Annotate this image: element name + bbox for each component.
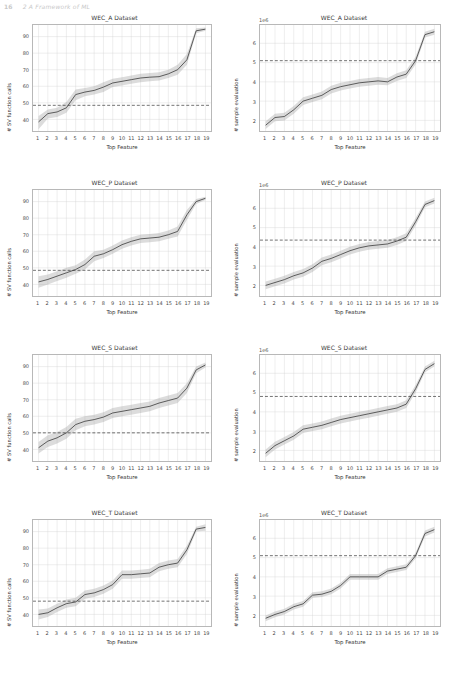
x-axis-label: Top Feature [259,144,441,150]
y-axis-tick-label: 60 [10,578,29,584]
y-axis-label: # SV function calls [6,578,12,627]
y-axis-tick-label: 50 [10,100,29,106]
y-axis-tick-label: 6 [237,40,256,46]
y-axis-tick-label: 2 [237,118,256,124]
x-axis-tick-label: 19 [201,630,211,636]
plot-area [32,519,212,627]
plot-area [32,189,212,297]
y-axis-tick-label: 50 [10,265,29,271]
running-head: 16 2 A Framework of ML [0,1,459,11]
x-axis-label: Top Feature [259,639,441,645]
y-axis-tick-label: 2 [237,283,256,289]
plot-area [32,24,212,132]
y-axis-tick-label: 4 [237,79,256,85]
axis-offset-label: 1e6 [259,347,268,353]
y-axis-tick-label: 6 [237,370,256,376]
x-axis-tick-label: 19 [430,465,440,471]
axis-offset-label: 1e6 [259,512,268,518]
plot-area [259,354,441,462]
axis-offset-label: 1e6 [259,17,268,23]
chart-title: WEC_T Dataset [0,509,229,516]
y-axis-tick-label: 80 [10,380,29,386]
y-axis-tick-label: 2 [237,448,256,454]
y-axis-tick-label: 3 [237,99,256,105]
y-axis-tick-label: 90 [10,363,29,369]
y-axis-label: # SV function calls [6,83,12,132]
page-number: 16 [4,3,13,10]
plot-area [32,354,212,462]
chart-title: WEC_A Dataset [0,14,229,21]
plot-area [259,24,441,132]
figure-grid: WEC_A Dataset405060708090123456789101112… [0,12,459,694]
chart-cell: WEC_A Dataset405060708090123456789101112… [0,12,229,177]
x-axis-label: Top Feature [259,309,441,315]
chart-cell: WEC_S Dataset405060708090123456789101112… [0,342,229,507]
y-axis-tick-label: 80 [10,50,29,56]
y-axis-label: # sample evaluation [233,573,239,627]
chart-cell: WEC_T Dataset1e6234561234567891011121314… [229,507,459,672]
y-axis-tick-label: 3 [237,264,256,270]
y-axis-tick-label: 60 [10,413,29,419]
y-axis-tick-label: 70 [10,562,29,568]
chart-cell: WEC_T Dataset405060708090123456789101112… [0,507,229,672]
x-axis-tick-label: 19 [201,300,211,306]
y-axis-tick-label: 60 [10,83,29,89]
y-axis-tick-label: 70 [10,397,29,403]
y-axis-tick-label: 90 [10,528,29,534]
y-axis-tick-label: 90 [10,33,29,39]
y-axis-tick-label: 6 [237,535,256,541]
y-axis-tick-label: 2 [237,613,256,619]
y-axis-label: # sample evaluation [233,408,239,462]
y-axis-tick-label: 5 [237,554,256,560]
x-axis-tick-label: 19 [430,135,440,141]
plot-area [259,189,441,297]
y-axis-tick-label: 5 [237,59,256,65]
y-axis-label: # SV function calls [6,248,12,297]
chart-cell: WEC_P Dataset1e6234561234567891011121314… [229,177,459,342]
y-axis-tick-label: 60 [10,248,29,254]
x-axis-label: Top Feature [32,474,212,480]
y-axis-tick-label: 70 [10,67,29,73]
x-axis-tick-label: 19 [201,465,211,471]
y-axis-label: # SV function calls [6,413,12,462]
x-axis-label: Top Feature [32,309,212,315]
chart-cell: WEC_S Dataset1e6234561234567891011121314… [229,342,459,507]
chart-cell: WEC_A Dataset1e6234561234567891011121314… [229,12,459,177]
y-axis-tick-label: 4 [237,574,256,580]
y-axis-tick-label: 80 [10,215,29,221]
y-axis-tick-label: 50 [10,595,29,601]
chart-title: WEC_P Dataset [0,179,229,186]
y-axis-tick-label: 50 [10,430,29,436]
x-axis-tick-label: 19 [430,630,440,636]
y-axis-tick-label: 90 [10,198,29,204]
y-axis-tick-label: 5 [237,389,256,395]
x-axis-label: Top Feature [32,639,212,645]
y-axis-tick-label: 5 [237,224,256,230]
x-axis-tick-label: 19 [430,300,440,306]
running-title: 2 A Framework of ML [23,3,90,10]
y-axis-tick-label: 40 [10,282,29,288]
y-axis-tick-label: 3 [237,429,256,435]
y-axis-tick-label: 70 [10,232,29,238]
y-axis-tick-label: 6 [237,205,256,211]
plot-area [259,519,441,627]
x-axis-label: Top Feature [32,144,212,150]
y-axis-tick-label: 4 [237,409,256,415]
y-axis-tick-label: 3 [237,594,256,600]
y-axis-tick-label: 40 [10,117,29,123]
y-axis-tick-label: 40 [10,447,29,453]
y-axis-label: # sample evaluation [233,78,239,132]
axis-offset-label: 1e6 [259,182,268,188]
chart-title: WEC_S Dataset [0,344,229,351]
y-axis-tick-label: 4 [237,244,256,250]
x-axis-label: Top Feature [259,474,441,480]
x-axis-tick-label: 19 [201,135,211,141]
y-axis-tick-label: 40 [10,612,29,618]
y-axis-tick-label: 80 [10,545,29,551]
y-axis-label: # sample evaluation [233,243,239,297]
chart-cell: WEC_P Dataset405060708090123456789101112… [0,177,229,342]
